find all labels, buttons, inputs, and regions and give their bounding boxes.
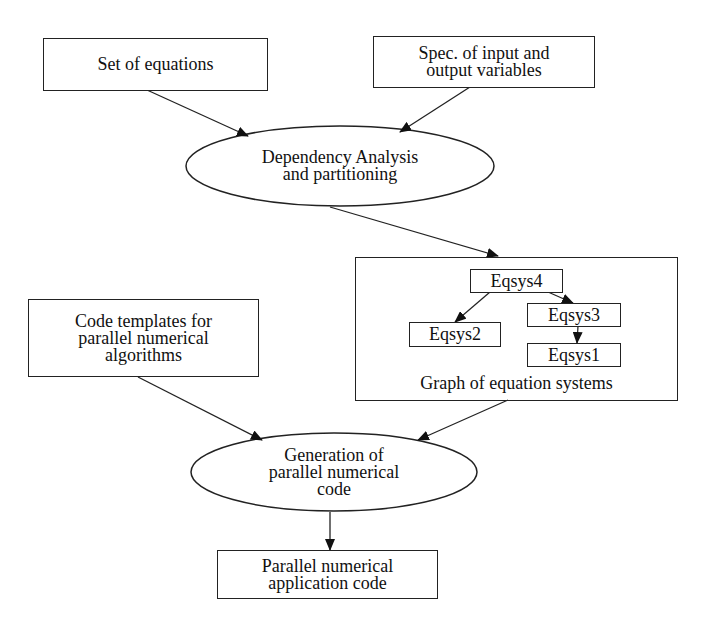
node-generation: Generation of parallel numerical code xyxy=(191,433,477,511)
node-spec-io-label: Spec. of input and output variables xyxy=(419,45,550,79)
node-spec-io: Spec. of input and output variables xyxy=(373,36,595,88)
edge-dependency-to-graph xyxy=(330,207,498,256)
node-generation-label: Generation of parallel numerical code xyxy=(269,447,399,498)
node-eqsys1: Eqsys1 xyxy=(527,343,621,367)
node-eqsys2: Eqsys2 xyxy=(409,322,501,347)
node-eqsys1-label: Eqsys1 xyxy=(548,345,600,366)
node-eqsys2-label: Eqsys2 xyxy=(429,324,481,345)
node-eqsys3: Eqsys3 xyxy=(527,303,621,327)
node-code-templates-label: Code templates for parallel numerical al… xyxy=(75,313,212,364)
node-set-of-equations: Set of equations xyxy=(43,38,268,91)
node-output-code-label: Parallel numerical application code xyxy=(262,558,393,592)
node-dependency-analysis-label: Dependency Analysis and partitioning xyxy=(262,149,418,183)
node-eqsys4-label: Eqsys4 xyxy=(490,271,542,292)
node-dependency-analysis: Dependency Analysis and partitioning xyxy=(186,126,494,206)
graph-container-label: Graph of equation systems xyxy=(356,373,677,394)
node-code-templates: Code templates for parallel numerical al… xyxy=(28,299,259,377)
node-eqsys4: Eqsys4 xyxy=(470,269,563,293)
edge-templates-to-generation xyxy=(138,377,262,440)
node-set-of-equations-label: Set of equations xyxy=(98,56,214,73)
node-eqsys3-label: Eqsys3 xyxy=(548,305,600,326)
node-output-code: Parallel numerical application code xyxy=(217,550,438,599)
